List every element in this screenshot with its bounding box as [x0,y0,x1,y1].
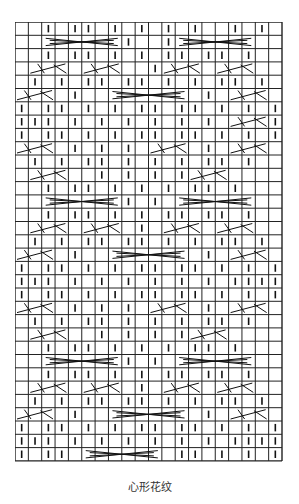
cable-cross-symbol [217,383,253,392]
cable-cross-symbol [191,330,227,339]
cable-cross-symbol [231,410,267,419]
cable-cross-symbol [30,170,66,179]
cable-cross-symbol [30,224,66,233]
cable-cross-symbol [231,303,267,312]
cable-cross-symbol [84,383,120,392]
chart-caption: 心形花纹 [0,478,299,494]
cable-cross-symbol [217,64,253,73]
cable-cross-symbol [151,144,187,153]
cable-cross-symbol [17,91,53,100]
cable-cross-symbol [217,224,253,233]
cable-cross-symbol [17,250,53,259]
cable-cross-symbol [231,117,267,126]
cable-cross-symbol [164,64,200,73]
cable-cross-symbol [17,410,53,419]
cable-cross-symbol [17,303,53,312]
cable-cross-symbol [151,303,187,312]
cable-cross-symbol [231,250,267,259]
cable-cross-symbol [231,144,267,153]
cable-cross-symbol [30,383,66,392]
cable-cross-symbol [191,170,227,179]
cable-cross-symbol [164,383,200,392]
cable-cross-symbol [17,144,53,153]
cable-cross-symbol [164,224,200,233]
cable-cross-symbol [30,64,66,73]
cable-cross-symbol [30,330,66,339]
cable-cross-symbol [231,91,267,100]
cable-cross-symbol [84,224,120,233]
cable-cross-symbol [84,64,120,73]
knitting-chart-grid [15,22,285,464]
